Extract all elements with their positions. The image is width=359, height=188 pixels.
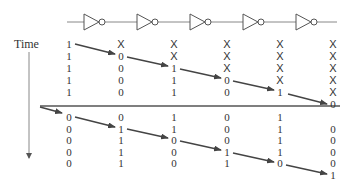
top_block-value: 1 [274, 87, 286, 98]
top_block-value: X [168, 51, 180, 62]
top_block-value: 0 [115, 75, 127, 86]
propagation-arrow [233, 153, 274, 162]
top_block-value: X [274, 63, 286, 74]
bottom_block-value: 0 [221, 135, 233, 146]
bottom_block-value: 0 [115, 112, 127, 123]
bottom_block-value: 0 [221, 112, 233, 123]
inverter-2-icon [137, 14, 158, 30]
propagation-arrow [127, 129, 168, 138]
bottom_block-value: 0 [327, 135, 339, 146]
top_block-value: X [327, 63, 339, 74]
top_block-value: X [274, 51, 286, 62]
propagation-arrow [180, 69, 221, 78]
top_block-value: 0 [115, 63, 127, 74]
top_block-value: 0 [221, 87, 233, 98]
inverter-4-icon [243, 14, 264, 30]
top_block-value: 1 [63, 63, 75, 74]
top_block-value: 1 [63, 39, 75, 50]
bottom_block-value: 1 [274, 112, 286, 123]
inverter-5-icon [296, 14, 317, 30]
top_block-value: 0 [327, 99, 339, 110]
top_block-value: X [115, 39, 127, 50]
propagation-arrow [127, 57, 168, 66]
top_block-value: X [327, 87, 339, 98]
top_block-value: 0 [115, 87, 127, 98]
propagation-arrow [75, 117, 115, 127]
bottom_block-value: 1 [327, 170, 339, 181]
top_block-value: 1 [168, 87, 180, 98]
bottom_block-value: 1 [115, 158, 127, 169]
top_block-value: X [274, 39, 286, 50]
propagation-arrow [180, 141, 221, 150]
top_block-value: X [168, 39, 180, 50]
feedback-arrow-in [288, 94, 327, 104]
top_block-value: 0 [221, 75, 233, 86]
bottom_block-value: 1 [168, 112, 180, 123]
top_block-value: X [327, 51, 339, 62]
top_block-value: 0 [115, 51, 127, 62]
propagation-arrow [233, 81, 274, 90]
top_block-value: 1 [168, 63, 180, 74]
propagation-arrow [286, 165, 327, 174]
inverter-1-icon [84, 14, 105, 30]
bottom_block-value: 1 [274, 135, 286, 146]
top_block-value: X [221, 51, 233, 62]
bottom_block-value: 0 [168, 158, 180, 169]
bottom_block-value: 0 [168, 135, 180, 146]
top_block-value: 1 [63, 51, 75, 62]
bottom_block-value: 0 [63, 158, 75, 169]
propagation-arrow [75, 44, 115, 54]
bottom_block-value: 0 [63, 135, 75, 146]
top_block-value: 1 [63, 87, 75, 98]
top_block-value: X [221, 63, 233, 74]
bottom_block-value: 0 [274, 158, 286, 169]
top_block-value: X [327, 39, 339, 50]
inverter-3-icon [190, 14, 211, 30]
bottom_block-value: 0 [327, 158, 339, 169]
bottom_block-value: 1 [221, 158, 233, 169]
bottom_block-value: 1 [115, 135, 127, 146]
feedback-arrow [40, 107, 62, 113]
bottom_block-value: 0 [63, 112, 75, 123]
top_block-value: X [274, 75, 286, 86]
top_block-value: X [221, 39, 233, 50]
top_block-value: 1 [168, 75, 180, 86]
time-axis-label: Time [14, 38, 39, 50]
top_block-value: X [327, 75, 339, 86]
top_block-value: 1 [63, 75, 75, 86]
